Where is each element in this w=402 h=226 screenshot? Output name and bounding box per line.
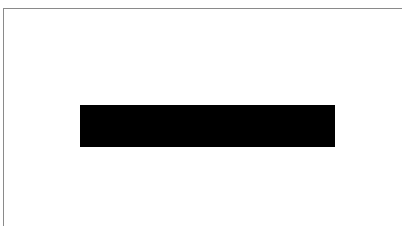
document-page	[3, 8, 402, 226]
redaction-block	[80, 105, 335, 147]
